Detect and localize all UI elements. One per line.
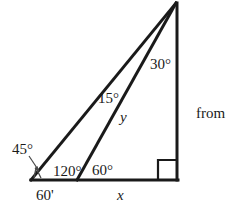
side-label-y: y	[120, 110, 127, 125]
geometry-diagram: 30° 15° y 45° 120° 60° 60' x from	[0, 0, 243, 211]
angle-label-obtuse: 120°	[53, 164, 82, 179]
length-label-base-left: 60'	[36, 188, 54, 203]
angle-label-apex-right: 30°	[150, 57, 171, 72]
angle-label-apex-between-slants: 15°	[98, 91, 119, 106]
right-angle-marker	[158, 160, 178, 180]
angle-label-interior-base: 60°	[92, 163, 113, 178]
slant-short-segment	[77, 3, 176, 180]
text-label-from: from	[196, 106, 225, 121]
angle-label-left-vertex: 45°	[12, 142, 33, 157]
length-label-base-right: x	[117, 188, 124, 203]
